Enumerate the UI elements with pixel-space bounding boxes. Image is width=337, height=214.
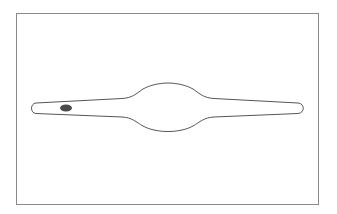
disk-outline <box>32 83 304 132</box>
dark-spot <box>60 105 72 112</box>
diagram-canvas <box>0 0 337 214</box>
